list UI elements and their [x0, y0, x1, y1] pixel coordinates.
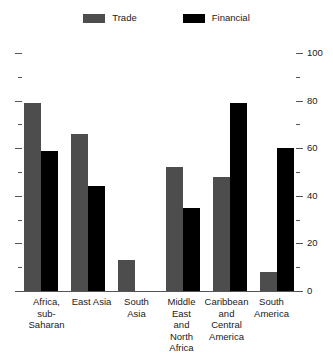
x-axis-label-line: sub-Saharan [24, 308, 69, 331]
x-axis-label-line: and Central [204, 308, 249, 331]
bar-groups [24, 53, 294, 291]
axis-tick-major [296, 53, 303, 54]
x-axis-label-line: Africa, [24, 296, 69, 308]
axis-tick-minor [18, 267, 22, 268]
x-axis-label-line: America [204, 331, 249, 343]
bar-financial [41, 151, 58, 291]
x-axis-label-line: South Asia [114, 296, 159, 319]
axis-tick-major [15, 53, 22, 54]
bar-financial [230, 103, 247, 291]
axis-tick-minor [18, 172, 22, 173]
axis-tick-label: 20 [307, 238, 318, 248]
bar-trade [166, 167, 183, 291]
x-axis-label-line: Caribbean [204, 296, 249, 308]
bar-trade [260, 272, 277, 291]
axis-tick-minor [296, 172, 300, 173]
plot-area [24, 53, 294, 291]
bar-group [24, 53, 58, 291]
axis-tick-minor [296, 77, 300, 78]
axis-tick-minor [296, 220, 300, 221]
x-axis-label-line: North Africa [159, 331, 204, 354]
axis-tick-major [15, 101, 22, 102]
financial-swatch [183, 14, 205, 23]
x-axis-label: Africa,sub-Saharan [24, 296, 69, 354]
bar-group [213, 53, 247, 291]
axis-tick-minor [296, 124, 300, 125]
axis-tick-minor [18, 220, 22, 221]
bar-group [118, 53, 152, 291]
axis-tick-label: 0 [307, 286, 312, 296]
x-axis-label-line: South [249, 296, 294, 308]
bar-financial [183, 208, 200, 291]
axis-tick-major [296, 243, 303, 244]
bar-financial [277, 148, 294, 291]
axis-tick-label: 80 [307, 96, 318, 106]
x-axis-label-line: and [159, 319, 204, 331]
bar-group [260, 53, 294, 291]
bar-trade [24, 103, 41, 291]
x-axis-label-line: Middle East [159, 296, 204, 319]
axis-tick-major [15, 148, 22, 149]
axis-tick-minor [18, 77, 22, 78]
legend-label-financial: Financial [212, 13, 250, 23]
x-axis-labels: Africa,sub-SaharanEast AsiaSouth AsiaMid… [24, 296, 294, 354]
axis-tick-major [296, 148, 303, 149]
x-axis-label-line: East Asia [69, 296, 114, 308]
axis-tick-major [296, 196, 303, 197]
x-axis-label-line: America [249, 308, 294, 320]
bar-group [71, 53, 105, 291]
x-axis-label: East Asia [69, 296, 114, 354]
x-axis-label: South Asia [114, 296, 159, 354]
axis-tick-minor [296, 267, 300, 268]
axis-baseline [16, 291, 299, 292]
axis-tick-major [15, 243, 22, 244]
bar-trade [213, 177, 230, 291]
x-axis-label: SouthAmerica [249, 296, 294, 354]
legend-item-trade: Trade [83, 13, 136, 23]
trade-swatch [83, 14, 105, 23]
axis-tick-label: 100 [307, 48, 323, 58]
axis-tick-major [15, 196, 22, 197]
bar-trade [71, 134, 88, 291]
bar-group [166, 53, 200, 291]
bar-financial [88, 186, 105, 291]
axis-tick-label: 60 [307, 143, 318, 153]
axis-tick-major [296, 101, 303, 102]
legend-item-financial: Financial [183, 13, 250, 23]
axis-tick-label: 40 [307, 191, 318, 201]
axis-tick-minor [18, 124, 22, 125]
x-axis-label: Middle EastandNorth Africa [159, 296, 204, 354]
legend-label-trade: Trade [112, 13, 136, 23]
x-axis-label: Caribbeanand CentralAmerica [204, 296, 249, 354]
bar-trade [118, 260, 135, 291]
